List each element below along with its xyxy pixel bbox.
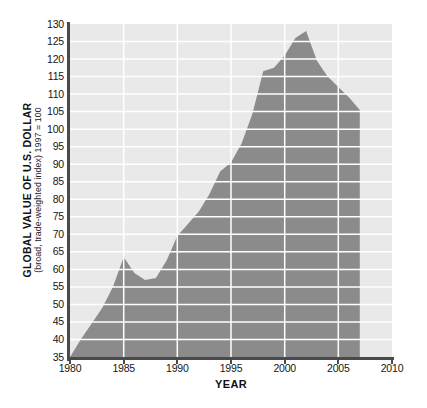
y-axis-line (67, 22, 70, 361)
y-tick-label: 70 (34, 229, 64, 240)
x-tick-mark (176, 360, 178, 364)
x-axis-title: YEAR (201, 378, 261, 390)
y-tick-label: 130 (34, 19, 64, 30)
y-tick-label: 40 (34, 334, 64, 345)
x-tick-label: 1995 (209, 363, 253, 374)
x-tick-mark (230, 360, 232, 364)
x-tick-label: 1990 (155, 363, 199, 374)
y-tick-label: 50 (34, 299, 64, 310)
y-tick-label: 75 (34, 211, 64, 222)
x-tick-mark (123, 360, 125, 364)
y-tick-label: 90 (34, 159, 64, 170)
y-tick-label: 65 (34, 246, 64, 257)
y-tick-label: 100 (34, 124, 64, 135)
x-tick-label: 2000 (263, 363, 307, 374)
y-tick-label: 35 (34, 352, 64, 363)
x-tick-label: 1980 (48, 363, 92, 374)
y-tick-label: 55 (34, 281, 64, 292)
y-tick-label: 95 (34, 141, 64, 152)
area-chart-plot (70, 24, 392, 357)
y-axis-title-main: GLOBAL VALUE OF U.S. DOLLAR (21, 103, 33, 278)
x-tick-mark (391, 360, 393, 364)
x-tick-mark (337, 360, 339, 364)
dollar-index-figure: GLOBAL VALUE OF U.S. DOLLAR (broad, trad… (0, 0, 427, 408)
y-tick-label: 120 (34, 54, 64, 65)
x-tick-mark (284, 360, 286, 364)
x-tick-label: 1985 (102, 363, 146, 374)
y-tick-label: 125 (34, 36, 64, 47)
y-tick-label: 85 (34, 176, 64, 187)
y-tick-label: 115 (34, 71, 64, 82)
x-tick-label: 2010 (370, 363, 414, 374)
y-tick-label: 45 (34, 316, 64, 327)
y-tick-label: 80 (34, 194, 64, 205)
x-tick-mark (69, 360, 71, 364)
y-tick-label: 105 (34, 106, 64, 117)
y-tick-label: 60 (34, 264, 64, 275)
x-tick-label: 2005 (316, 363, 360, 374)
y-tick-label: 110 (34, 89, 64, 100)
